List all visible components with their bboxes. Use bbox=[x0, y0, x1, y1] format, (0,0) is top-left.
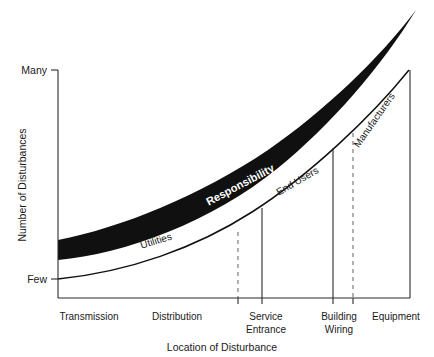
chart-background bbox=[0, 0, 434, 357]
chart-figure: Many Few Number of Disturbances Transmis… bbox=[0, 0, 434, 357]
disturbance-responsibility-chart: Many Few Number of Disturbances Transmis… bbox=[0, 0, 434, 357]
x-category-label-service-entrance-line2: Entrance bbox=[246, 324, 286, 335]
y-tick-label-many: Many bbox=[21, 64, 47, 76]
x-category-label-building-wiring-line1: Building bbox=[321, 311, 357, 322]
x-category-label-equipment: Equipment bbox=[372, 311, 420, 322]
x-category-label-distribution: Distribution bbox=[152, 311, 202, 322]
x-axis-title: Location of Disturbance bbox=[167, 341, 277, 353]
y-tick-label-few: Few bbox=[27, 273, 47, 285]
x-category-label-transmission: Transmission bbox=[59, 311, 118, 322]
x-category-label-building-wiring-line2: Wiring bbox=[325, 324, 353, 335]
x-category-label-service-entrance-line1: Service bbox=[249, 311, 283, 322]
y-axis-title: Number of Disturbances bbox=[16, 128, 28, 241]
